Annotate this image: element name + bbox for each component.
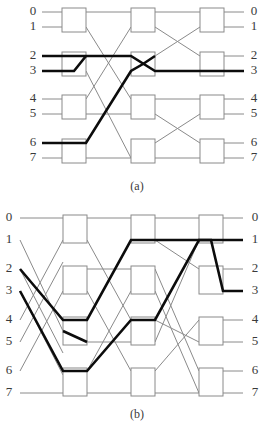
switch-a-s3-0[interactable] (200, 8, 224, 32)
output-label-b-7: 7 (252, 384, 259, 399)
input-label-a-4: 4 (30, 90, 37, 105)
output-labels-b: 0 1 2 3 4 5 6 7 (252, 209, 259, 399)
output-label-a-6: 6 (251, 134, 258, 149)
input-label-a-1: 1 (30, 18, 37, 33)
switch-b-s2-1[interactable] (131, 266, 155, 294)
input-label-b-0: 0 (6, 209, 13, 224)
input-labels-a: 0 1 2 3 4 5 6 7 (30, 3, 37, 164)
switch-a-s2-2[interactable] (131, 95, 155, 119)
output-label-b-5: 5 (252, 333, 259, 348)
input-label-b-2: 2 (6, 260, 13, 275)
route-b-3-to-3 (20, 240, 243, 371)
input-label-b-7: 7 (6, 384, 13, 399)
wire-b-s2-2 (155, 269, 199, 371)
input-label-a-2: 2 (30, 47, 37, 62)
output-label-a-3: 3 (251, 62, 258, 77)
switch-a-s2-3[interactable] (131, 139, 155, 163)
input-label-b-6: 6 (6, 362, 13, 377)
switch-a-s3-1[interactable] (200, 52, 224, 76)
output-label-a-1: 1 (251, 18, 258, 33)
input-label-a-0: 0 (30, 3, 37, 18)
switch-b-s3-3[interactable] (199, 368, 223, 396)
output-label-b-0: 0 (252, 209, 259, 224)
output-label-a-7: 7 (251, 149, 258, 164)
switch-b-s1-1[interactable] (63, 266, 87, 294)
panel-a: 0 1 2 3 4 5 6 7 0 1 2 3 4 5 6 7 (a) (0, 0, 275, 200)
switch-a-s1-2[interactable] (62, 95, 86, 119)
wire-b-s2-5 (155, 240, 199, 342)
switch-b-s1-0[interactable] (63, 215, 87, 243)
wires-a (42, 12, 244, 158)
output-label-b-1: 1 (252, 231, 259, 246)
input-label-a-5: 5 (30, 105, 37, 120)
switch-b-s3-2[interactable] (199, 317, 223, 345)
input-labels-b: 0 1 2 3 4 5 6 7 (6, 209, 13, 399)
output-label-b-4: 4 (252, 311, 259, 326)
caption-a: (a) (130, 179, 143, 193)
output-label-a-4: 4 (251, 90, 258, 105)
output-label-b-3: 3 (252, 282, 259, 297)
switch-a-s1-0[interactable] (62, 8, 86, 32)
output-label-a-5: 5 (251, 105, 258, 120)
panel-b: 0 1 2 3 4 5 6 7 0 1 2 3 4 5 6 7 (b) (0, 200, 275, 434)
switch-a-s2-0[interactable] (131, 8, 155, 32)
output-label-b-2: 2 (252, 260, 259, 275)
input-label-b-3: 3 (6, 282, 13, 297)
input-label-b-5: 5 (6, 333, 13, 348)
output-label-a-2: 2 (251, 47, 258, 62)
input-label-b-1: 1 (6, 231, 13, 246)
network-diagram-a: 0 1 2 3 4 5 6 7 0 1 2 3 4 5 6 7 (a) (0, 0, 275, 200)
input-label-a-3: 3 (30, 62, 37, 77)
wires-b (20, 218, 243, 393)
switch-a-s3-3[interactable] (200, 139, 224, 163)
caption-b: (b) (130, 407, 144, 421)
output-labels-a: 0 1 2 3 4 5 6 7 (251, 3, 258, 164)
routes-b (20, 240, 243, 371)
wire-b-in-4 (20, 240, 63, 320)
switches-a (62, 8, 224, 163)
wire-b-in-1 (20, 240, 63, 331)
output-label-a-0: 0 (251, 3, 258, 18)
switch-b-s2-3[interactable] (131, 368, 155, 396)
input-label-b-4: 4 (6, 311, 13, 326)
switch-a-s3-2[interactable] (200, 95, 224, 119)
network-diagram-b: 0 1 2 3 4 5 6 7 0 1 2 3 4 5 6 7 (b) (0, 200, 275, 434)
output-label-b-6: 6 (252, 362, 259, 377)
input-label-a-7: 7 (30, 149, 37, 164)
wire-b-s2-4 (155, 320, 199, 342)
input-label-a-6: 6 (30, 134, 37, 149)
